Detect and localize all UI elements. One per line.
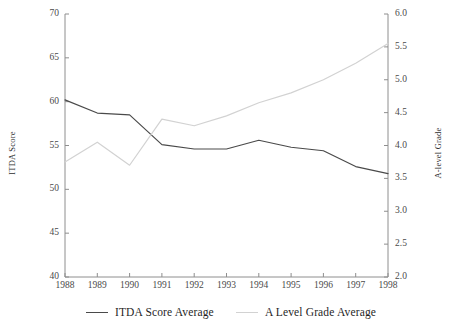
left-axis-tick-label: 65 [19,52,59,62]
left-axis-tick-label: 45 [19,227,59,237]
right-axis-tick-label: 5.0 [395,74,435,84]
legend-item-label: A Level Grade Average [265,306,376,318]
left-axis-tick-label: 50 [19,183,59,193]
left-axis-title: ITDA Score [7,123,17,183]
right-axis-tick-label: 5.5 [395,41,435,51]
chart-figure: ITDA Score A-level Grade 404550556065702… [0,0,462,335]
left-axis-tick-label: 70 [19,8,59,18]
left-axis-tick-label: 60 [19,96,59,106]
legend-line-swatch [86,312,108,313]
legend-item[interactable]: A Level Grade Average [236,306,376,318]
right-axis-tick-label: 3.5 [395,172,435,182]
legend-item-label: ITDA Score Average [115,306,214,318]
series-line-itda-score-average [65,100,388,174]
chart-legend: ITDA Score AverageA Level Grade Average [0,306,462,318]
x-axis-tick-label: 1998 [366,280,410,290]
series-line-a-level-grade-average [65,44,388,166]
right-axis-tick-label: 6.0 [395,8,435,18]
right-axis-tick-label: 2.5 [395,238,435,248]
right-axis-tick-label: 4.5 [395,107,435,117]
right-axis-tick-label: 3.0 [395,205,435,215]
legend-item[interactable]: ITDA Score Average [86,306,214,318]
right-axis-tick-label: 4.0 [395,140,435,150]
left-axis-tick-label: 55 [19,140,59,150]
legend-line-swatch [236,312,258,313]
